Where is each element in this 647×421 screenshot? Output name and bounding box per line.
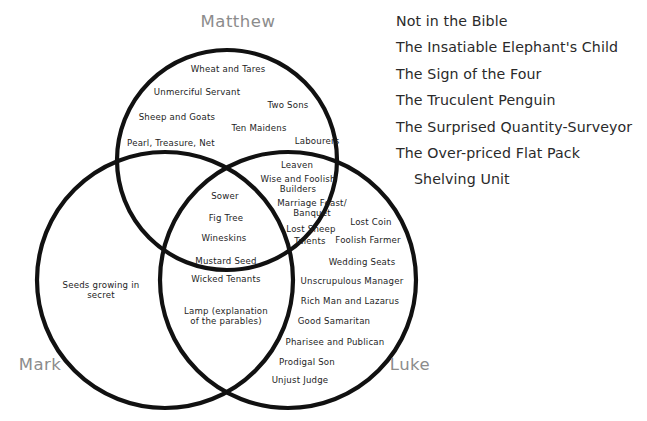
aside-list-item: The Truculent Penguin: [396, 93, 644, 107]
venn-entry: Wheat and Tares: [191, 64, 266, 74]
venn-entry: Lamp (explanation of the parables): [184, 306, 268, 326]
aside-list-item: The Surprised Quantity-Surveyor: [396, 120, 644, 134]
venn-entry: Pharisee and Publican: [286, 337, 385, 347]
venn-entry: Rich Man and Lazarus: [301, 296, 399, 306]
not-in-the-bible-list: Not in the BibleThe Insatiable Elephant'…: [396, 14, 644, 199]
venn-entry: Seeds growing in secret: [63, 280, 140, 300]
venn-entry: Talents: [294, 236, 325, 246]
venn-entry: Wedding Seats: [329, 257, 396, 267]
venn-entry: Marriage Feast/ Banquet: [277, 198, 347, 218]
venn-entry: Good Samaritan: [298, 316, 371, 326]
aside-list-item: The Insatiable Elephant's Child: [396, 40, 644, 54]
matthew-circle-label: Matthew: [201, 12, 276, 31]
venn-entry: Lost Coin: [350, 217, 391, 227]
luke-circle-label: Luke: [390, 355, 430, 374]
venn-entry: Fig Tree: [209, 213, 243, 223]
aside-list-item: The Over-priced Flat Pack: [396, 146, 644, 160]
venn-entry: Unscrupulous Manager: [301, 276, 404, 286]
venn-entry: Sower: [211, 191, 239, 201]
venn-entry: Mustard Seed: [195, 256, 256, 266]
venn-entry: Ten Maidens: [231, 123, 286, 133]
venn-entry: Two Sons: [267, 100, 308, 110]
venn-entry: Labourers: [295, 136, 340, 146]
venn-entry: Foolish Farmer: [335, 235, 400, 245]
venn-entry: Pearl, Treasure, Net: [127, 138, 215, 148]
venn-entry: Sheep and Goats: [139, 112, 216, 122]
aside-list-item: The Sign of the Four: [396, 67, 644, 81]
venn-entry: Wineskins: [202, 233, 247, 243]
venn-entry: Unmerciful Servant: [154, 87, 241, 97]
venn-entry: Wise and Foolish Builders: [260, 174, 335, 194]
venn-diagram-canvas: Matthew Mark Luke Wheat and TaresUnmerci…: [0, 0, 647, 421]
aside-list-item: Shelving Unit: [396, 172, 644, 186]
venn-entry: Wicked Tenants: [191, 274, 260, 284]
venn-entry: Prodigal Son: [279, 357, 335, 367]
mark-circle-label: Mark: [19, 355, 62, 374]
venn-entry: Unjust Judge: [272, 375, 329, 385]
venn-entry: Lost Sheep: [286, 224, 335, 234]
aside-list-item: Not in the Bible: [396, 14, 644, 28]
venn-entry: Leaven: [281, 160, 313, 170]
